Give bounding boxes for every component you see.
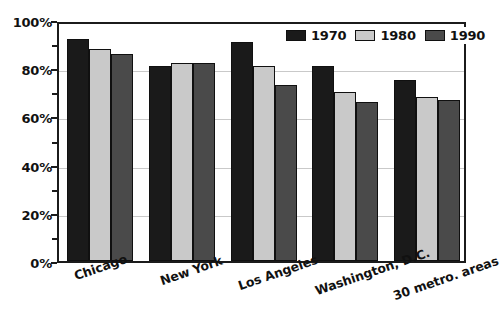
bar-1980-los-angeles bbox=[253, 66, 275, 261]
bar-1980-30-metro-areas bbox=[416, 97, 438, 261]
legend-label: 1990 bbox=[450, 28, 485, 43]
y-axis-tick-label: 80% bbox=[0, 63, 52, 78]
bar-1980-washington-d-c bbox=[334, 92, 356, 261]
legend-label: 1970 bbox=[311, 28, 346, 43]
y-axis-tick-label: 60% bbox=[0, 111, 52, 126]
bar-1970-chicago bbox=[67, 39, 89, 261]
y-axis-tick-label: 20% bbox=[0, 207, 52, 222]
legend-label: 1980 bbox=[380, 28, 415, 43]
x-axis: ChicagoNew YorkLos AngelesWashington, D.… bbox=[0, 263, 477, 317]
legend-swatch-1990 bbox=[425, 30, 445, 41]
bar-1990-los-angeles bbox=[275, 85, 297, 261]
legend-swatch-1980 bbox=[355, 30, 375, 41]
bar-1970-new-york bbox=[149, 66, 171, 261]
plot-area bbox=[57, 22, 466, 263]
bar-1990-new-york bbox=[193, 63, 215, 261]
legend: 197019801990 bbox=[284, 27, 487, 44]
bar-1990-30-metro-areas bbox=[438, 100, 460, 261]
bar-1970-washington-d-c bbox=[312, 66, 334, 261]
y-axis-tick-label: 40% bbox=[0, 159, 52, 174]
bar-1990-washington-d-c bbox=[356, 102, 378, 261]
y-axis-tick-label: 100% bbox=[0, 15, 52, 30]
bar-1990-chicago bbox=[111, 54, 133, 261]
bar-1970-los-angeles bbox=[231, 42, 253, 261]
legend-swatch-1970 bbox=[286, 30, 306, 41]
legend-entry-1970: 1970 bbox=[286, 28, 346, 43]
bar-1980-chicago bbox=[89, 49, 111, 261]
legend-entry-1980: 1980 bbox=[355, 28, 415, 43]
bar-1980-new-york bbox=[171, 63, 193, 261]
legend-entry-1990: 1990 bbox=[425, 28, 485, 43]
bar-1970-30-metro-areas bbox=[394, 80, 416, 261]
